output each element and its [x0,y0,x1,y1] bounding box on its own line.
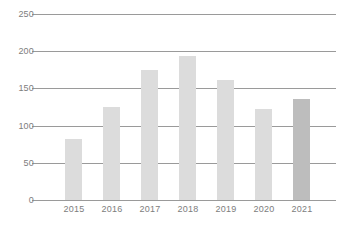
bar-2015: 82 [65,139,82,200]
xtick-label-2019: 2019 [206,205,246,214]
ytick-label-250: 250 [4,10,34,19]
bar-value-2019: 162 [217,80,218,81]
bar-2021: 136 [293,99,310,200]
ytick-label-50: 50 [4,159,34,168]
ytick-label-200: 200 [4,47,34,56]
bar-value-2021: 136 [293,99,294,100]
plot-area: 82 125 175 193 162 123 136 [38,14,336,200]
ytick-label-0: 0 [4,196,34,205]
bar-value-2020: 123 [255,109,256,110]
axis-baseline [38,200,336,201]
bar-2016: 125 [103,107,120,200]
xtick-label-2018: 2018 [168,205,208,214]
xtick-label-2021: 2021 [282,205,322,214]
bar-2017: 175 [141,70,158,200]
xtick-label-2016: 2016 [92,205,132,214]
bar-value-2017: 175 [141,70,142,71]
xtick-label-2020: 2020 [244,205,284,214]
ytick-label-100: 100 [4,122,34,131]
bar-2018: 193 [179,56,196,200]
bar-2019: 162 [217,80,234,201]
gridline-250 [38,14,336,15]
bar-value-2016: 125 [103,107,104,108]
ytick-label-150: 150 [4,84,34,93]
bar-2020: 123 [255,109,272,201]
xtick-label-2015: 2015 [54,205,94,214]
gridline-200 [38,51,336,52]
bar-value-2015: 82 [65,139,66,140]
bar-value-2018: 193 [179,56,180,57]
bar-chart: 82 125 175 193 162 123 136 250 200 150 1… [0,0,347,236]
xtick-label-2017: 2017 [130,205,170,214]
